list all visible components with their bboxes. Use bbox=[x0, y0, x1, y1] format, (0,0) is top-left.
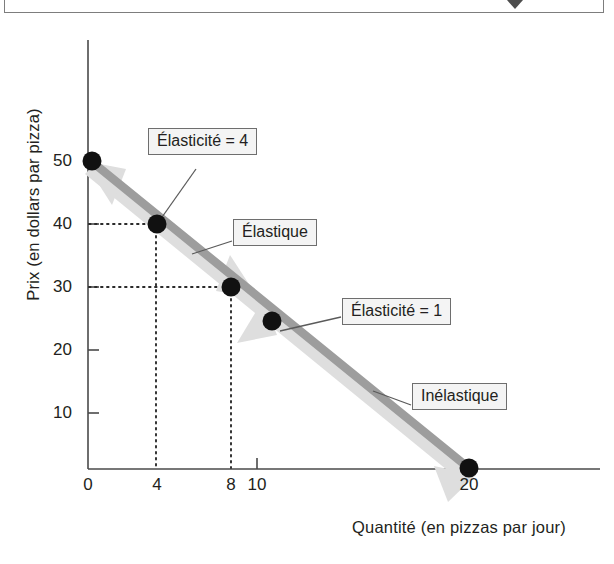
data-point-4-40 bbox=[148, 215, 167, 234]
data-point-10-25 bbox=[263, 312, 282, 331]
x-tick-label-20: 20 bbox=[452, 475, 486, 495]
x-tick-label-10: 10 bbox=[240, 475, 274, 495]
y-tick-label-30: 30 bbox=[38, 277, 72, 297]
x-axis-title: Quantité (en pizzas par jour) bbox=[352, 518, 566, 537]
guide-line-q8 bbox=[89, 287, 231, 468]
leader-line-elasticite-4 bbox=[160, 169, 196, 220]
chevron-down-icon[interactable] bbox=[507, 0, 523, 9]
x-tick-label-4: 4 bbox=[140, 475, 174, 495]
data-point-0-50 bbox=[83, 152, 102, 171]
elasticity-arrow-overlay bbox=[84, 161, 476, 502]
y-tick-label-10: 10 bbox=[38, 403, 72, 423]
y-tick-label-40: 40 bbox=[38, 214, 72, 234]
guide-line-q4 bbox=[89, 224, 156, 468]
x-tick-label-0: 0 bbox=[71, 475, 105, 495]
y-tick-label-20: 20 bbox=[38, 340, 72, 360]
annotation-elasticite-1: Élasticité = 1 bbox=[342, 298, 451, 325]
annotation-elasticite-4: Élasticité = 4 bbox=[148, 128, 257, 155]
data-point-8-30 bbox=[222, 278, 241, 297]
top-bar bbox=[4, 0, 604, 13]
annotation-elastique: Élastique bbox=[233, 219, 317, 246]
annotation-inelastique: Inélastique bbox=[412, 383, 507, 410]
y-tick-label-50: 50 bbox=[38, 151, 72, 171]
chart-figure: Prix (en dollars par pizza) Quantité (en… bbox=[0, 13, 614, 564]
